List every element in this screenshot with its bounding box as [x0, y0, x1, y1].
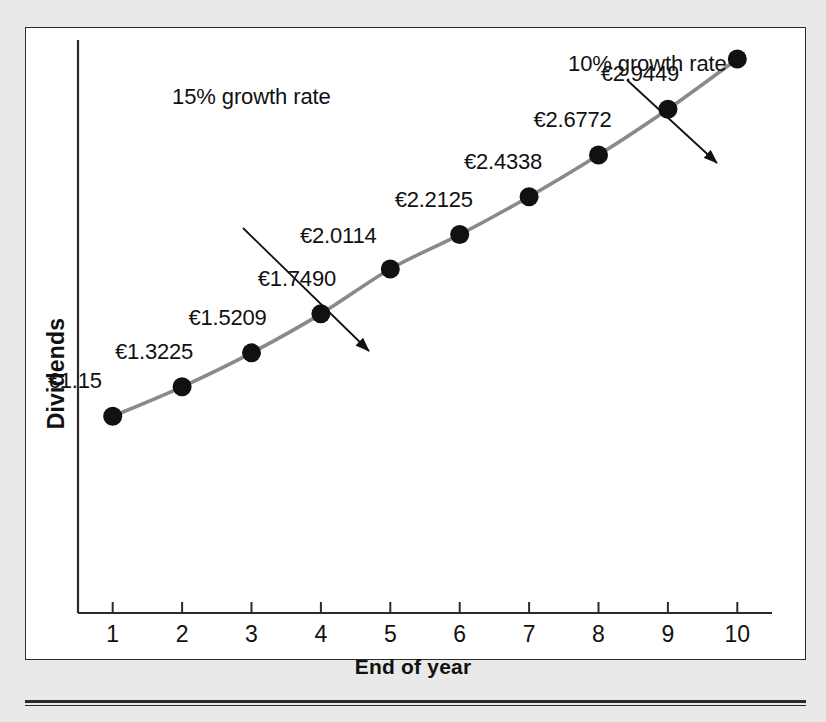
x-axis-tick-label-8: 8: [592, 621, 605, 648]
data-point-label-year-3: €1.5209: [188, 305, 266, 331]
x-axis-tick-label-6: 6: [453, 621, 466, 648]
x-axis-tick-label-2: 2: [176, 621, 189, 648]
data-point-label-year-6: €2.2125: [395, 187, 473, 213]
x-axis-tick-label-7: 7: [523, 621, 536, 648]
x-axis-tick-label-10: 10: [725, 621, 751, 648]
data-point-label-year-2: €1.3225: [115, 339, 193, 365]
x-axis-tick-label-9: 9: [661, 621, 674, 648]
x-axis-tick-label-5: 5: [384, 621, 397, 648]
data-point-label-year-5: €2.0114: [300, 223, 377, 249]
annotation-label-15-percent: 15% growth rate: [172, 84, 331, 110]
data-point-label-year-7: €2.4338: [464, 149, 542, 175]
x-axis-tick-label-1: 1: [106, 621, 119, 648]
x-axis-tick-label-4: 4: [314, 621, 327, 648]
bottom-rule-thin: [25, 705, 806, 706]
annotation-label-10-percent: 10% growth rate: [568, 51, 727, 77]
data-point-label-year-8: €2.6772: [533, 107, 611, 133]
page-background: Dividends End of year 12345678910 €1.15€…: [0, 0, 826, 722]
data-point-label-year-1: €1.15: [48, 368, 102, 394]
data-point-label-year-4: €1.7490: [258, 266, 336, 292]
x-axis-title: End of year: [0, 655, 826, 679]
x-axis-tick-label-3: 3: [245, 621, 258, 648]
bottom-rule-thick: [25, 700, 806, 703]
